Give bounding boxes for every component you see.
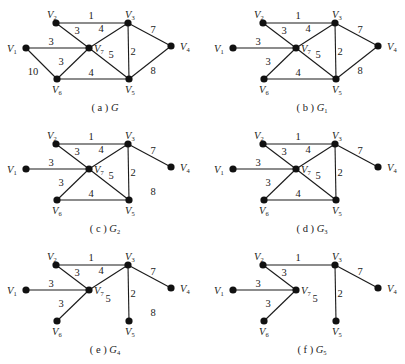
- vertex-label-v5: V5: [332, 205, 342, 217]
- edge-weight-label: 3: [281, 267, 286, 278]
- edge-weight-label: 1: [88, 131, 93, 142]
- vertex-label-v1: V1: [214, 43, 224, 55]
- orphan-weight-label: 8: [150, 186, 155, 197]
- vertex-label-v3: V3: [125, 251, 135, 263]
- edge-weight-label: 3: [265, 56, 270, 67]
- edge-weight-label: 4: [88, 188, 94, 199]
- edge-v2-v7: [56, 23, 89, 48]
- vertex-label-v7: V7: [301, 164, 311, 176]
- edge-weight-label: 3: [58, 298, 63, 309]
- vertex-label-v7: V7: [301, 43, 311, 55]
- vertex-v1: [22, 44, 29, 51]
- vertex-label-v6: V6: [52, 84, 62, 96]
- edge-weight-label: 3: [74, 25, 79, 36]
- edge-weight-label: 3: [281, 25, 286, 36]
- vertex-label-v3: V3: [332, 9, 342, 21]
- vertex-v6: [53, 317, 60, 324]
- orphan-weight-label: 5: [105, 293, 110, 304]
- edge-weight-label: 4: [305, 23, 311, 34]
- edge-weight-label: 7: [357, 145, 362, 156]
- vertex-label-v7: V7: [94, 164, 104, 176]
- edge-weight-label: 2: [130, 288, 135, 299]
- vertex-v6: [260, 75, 267, 82]
- edge-weight-label: 3: [74, 267, 79, 278]
- panel-e: 134327358V1V2V3V4V5V6V7( e ) G4: [7, 251, 190, 356]
- vertex-label-v5: V5: [332, 326, 342, 338]
- edge-weight-label: 2: [337, 167, 342, 178]
- edge-weight-label: 5: [108, 170, 113, 181]
- orphan-weight-label: 5: [312, 293, 317, 304]
- vertex-label-v1: V1: [214, 164, 224, 176]
- vertex-label-v6: V6: [259, 84, 269, 96]
- edge-v3-v5: [335, 23, 336, 79]
- edge-v3-v5: [335, 144, 336, 200]
- edge-weight-label: 3: [265, 177, 270, 188]
- panel-caption: ( c ) G2: [90, 223, 120, 235]
- vertex-v6: [260, 196, 267, 203]
- edge-weight-label: 3: [58, 177, 63, 188]
- vertex-label-v4: V4: [387, 41, 397, 53]
- vertex-label-v3: V3: [332, 251, 342, 263]
- vertex-label-v2: V2: [47, 130, 57, 142]
- vertex-v7: [292, 44, 299, 51]
- vertex-label-v5: V5: [125, 205, 135, 217]
- vertex-v7: [292, 286, 299, 293]
- vertex-label-v1: V1: [7, 164, 17, 176]
- vertex-label-v7: V7: [94, 43, 104, 55]
- vertex-label-v4: V4: [180, 41, 190, 53]
- vertex-v7: [85, 44, 92, 51]
- edge-weight-label: 1: [88, 10, 93, 21]
- edge-v2-v7: [263, 23, 296, 48]
- edge-weight-label: 2: [337, 46, 342, 57]
- vertex-label-v6: V6: [52, 326, 62, 338]
- edge-weight-label: 3: [255, 278, 260, 289]
- edge-weight-label: 2: [337, 288, 342, 299]
- vertex-v5: [125, 75, 132, 82]
- vertex-label-v4: V4: [387, 283, 397, 295]
- vertex-v1: [229, 44, 236, 51]
- panel-b: 1343527834V1V2V3V4V5V6V7( b ) G1: [214, 9, 397, 114]
- edge-weight-label: 5: [108, 49, 113, 60]
- vertex-label-v5: V5: [332, 84, 342, 96]
- vertex-v6: [53, 196, 60, 203]
- edge-weight-label: 4: [88, 67, 94, 78]
- vertex-label-v6: V6: [52, 205, 62, 217]
- edge-weight-label: 3: [48, 36, 53, 47]
- vertex-label-v7: V7: [94, 285, 104, 297]
- panel-caption: ( e ) G4: [90, 344, 121, 356]
- panel-f: 1332735V1V2V3V4V5V6V7( f ) G5: [214, 251, 397, 356]
- edge-weight-label: 3: [58, 56, 63, 67]
- edge-weight-label: 10: [28, 66, 39, 77]
- edge-weight-label: 3: [255, 36, 260, 47]
- vertex-label-v3: V3: [125, 9, 135, 21]
- edge-weight-label: 8: [150, 65, 155, 76]
- vertex-v1: [229, 165, 236, 172]
- panel-caption: ( d ) G3: [297, 223, 328, 235]
- orphan-weight-label: 8: [150, 307, 155, 318]
- edge-weight-label: 2: [130, 46, 135, 57]
- vertex-label-v2: V2: [254, 251, 264, 263]
- edge-weight-label: 3: [255, 157, 260, 168]
- edge-v2-v7: [56, 144, 89, 169]
- edge-weight-label: 7: [150, 24, 155, 35]
- vertex-label-v1: V1: [214, 285, 224, 297]
- graph-figure: 134352783410V1V2V3V4V5V6V7( a ) G1343527…: [0, 0, 405, 364]
- edge-weight-label: 4: [295, 188, 301, 199]
- vertex-label-v3: V3: [125, 130, 135, 142]
- edge-weight-label: 8: [357, 65, 362, 76]
- vertex-label-v2: V2: [254, 9, 264, 21]
- vertex-label-v7: V7: [301, 285, 311, 297]
- vertex-v1: [22, 165, 29, 172]
- edge-weight-label: 4: [98, 144, 104, 155]
- vertex-v4: [374, 42, 381, 49]
- edge-weight-label: 5: [315, 170, 320, 181]
- vertex-v5: [332, 75, 339, 82]
- edge-v3-v5: [128, 23, 129, 79]
- vertex-label-v6: V6: [259, 326, 269, 338]
- vertex-v5: [125, 317, 132, 324]
- vertex-label-v3: V3: [332, 130, 342, 142]
- vertex-v6: [53, 75, 60, 82]
- edge-v3-v5: [128, 144, 129, 200]
- panel-a: 134352783410V1V2V3V4V5V6V7( a ) G: [7, 9, 190, 114]
- edge-weight-label: 7: [150, 145, 155, 156]
